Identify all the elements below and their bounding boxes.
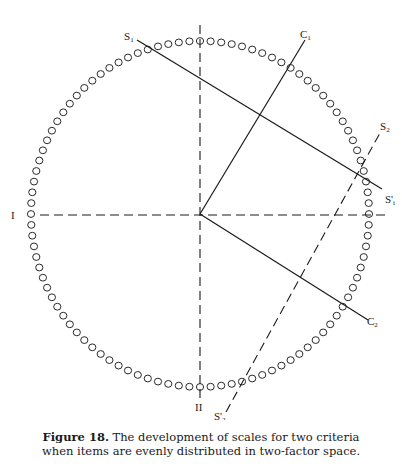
item-marker xyxy=(278,362,285,369)
item-marker xyxy=(44,137,51,144)
item-marker xyxy=(81,85,88,92)
item-marker xyxy=(357,264,364,271)
item-marker xyxy=(54,118,61,125)
item-marker xyxy=(28,200,35,207)
item-marker xyxy=(349,284,356,291)
item-marker xyxy=(27,211,34,218)
item-marker xyxy=(249,375,256,382)
label-axis-ii: II xyxy=(195,401,203,413)
scale-line-s2 xyxy=(226,133,380,412)
item-marker xyxy=(48,294,55,301)
item-marker xyxy=(304,344,311,351)
item-marker xyxy=(207,383,214,390)
item-marker xyxy=(364,232,371,239)
item-marker xyxy=(320,92,327,99)
item-marker xyxy=(33,254,40,261)
vector-c1 xyxy=(200,40,305,214)
item-marker xyxy=(106,65,113,72)
item-marker xyxy=(106,357,113,364)
label-s1: S1 xyxy=(124,30,134,44)
item-marker xyxy=(39,147,46,154)
item-marker xyxy=(154,43,161,50)
label-s2: S2 xyxy=(380,120,390,134)
factor-space-diagram: S1 C1 S2 S'i C2 I II S'2 xyxy=(0,0,402,420)
item-marker xyxy=(339,118,346,125)
item-marker xyxy=(349,137,356,144)
item-marker xyxy=(360,168,367,175)
item-marker xyxy=(89,77,96,84)
item-marker xyxy=(249,46,256,53)
item-marker xyxy=(186,38,193,45)
item-marker xyxy=(115,362,122,369)
item-marker xyxy=(333,109,340,116)
item-marker xyxy=(165,381,172,388)
item-marker xyxy=(287,357,294,364)
item-marker xyxy=(54,303,61,310)
item-marker xyxy=(312,85,319,92)
item-marker xyxy=(134,372,141,379)
label-s1-prime: S'i xyxy=(385,193,395,207)
item-marker xyxy=(218,382,225,389)
item-marker xyxy=(124,54,131,61)
item-marker xyxy=(186,383,193,390)
item-marker xyxy=(44,284,51,291)
figure-number: Figure 18. xyxy=(43,430,109,444)
label-c2: C2 xyxy=(367,315,378,329)
item-marker xyxy=(228,381,235,388)
item-marker xyxy=(39,274,46,281)
item-marker xyxy=(66,100,73,107)
item-marker xyxy=(259,50,266,57)
item-marker xyxy=(365,200,372,207)
item-marker xyxy=(154,378,161,385)
item-marker xyxy=(36,157,43,164)
item-marker xyxy=(165,41,172,48)
item-marker xyxy=(144,375,151,382)
item-marker xyxy=(360,254,367,261)
item-marker xyxy=(66,321,73,328)
item-marker xyxy=(354,274,361,281)
item-marker xyxy=(365,211,372,218)
item-marker xyxy=(364,189,371,196)
item-marker xyxy=(36,264,43,271)
item-marker xyxy=(33,168,40,175)
item-marker xyxy=(354,147,361,154)
item-marker xyxy=(327,321,334,328)
item-marker xyxy=(29,189,36,196)
item-marker xyxy=(175,382,182,389)
caption-line-2: when items are evenly distributed in two… xyxy=(0,444,402,458)
item-marker xyxy=(207,38,214,45)
item-marker xyxy=(28,222,35,229)
label-s2-prime: S'2 xyxy=(214,410,226,420)
item-marker xyxy=(238,43,245,50)
item-marker xyxy=(29,232,36,239)
item-marker xyxy=(175,39,182,46)
item-marker xyxy=(268,367,275,374)
scale-line-s1 xyxy=(137,40,382,189)
item-marker xyxy=(73,92,80,99)
item-marker xyxy=(218,39,225,46)
item-marker xyxy=(124,367,131,374)
item-marker xyxy=(296,71,303,78)
item-marker xyxy=(48,127,55,134)
item-marker xyxy=(81,337,88,344)
item-marker xyxy=(228,41,235,48)
caption-text-1: The development of scales for two criter… xyxy=(109,430,360,444)
item-marker xyxy=(73,329,80,336)
item-marker xyxy=(327,100,334,107)
item-marker xyxy=(97,351,104,358)
caption-line-1: Figure 18. The development of scales for… xyxy=(0,430,402,444)
item-marker xyxy=(134,50,141,57)
item-marker xyxy=(304,77,311,84)
figure-caption: Figure 18. The development of scales for… xyxy=(0,430,402,458)
item-marker xyxy=(97,71,104,78)
item-marker xyxy=(362,243,369,250)
item-marker xyxy=(259,372,266,379)
item-marker xyxy=(345,294,352,301)
item-marker xyxy=(30,178,37,185)
item-marker xyxy=(320,329,327,336)
item-marker xyxy=(89,344,96,351)
item-marker xyxy=(60,109,67,116)
item-marker xyxy=(312,337,319,344)
item-marker xyxy=(333,312,340,319)
label-c1: C1 xyxy=(300,28,311,42)
